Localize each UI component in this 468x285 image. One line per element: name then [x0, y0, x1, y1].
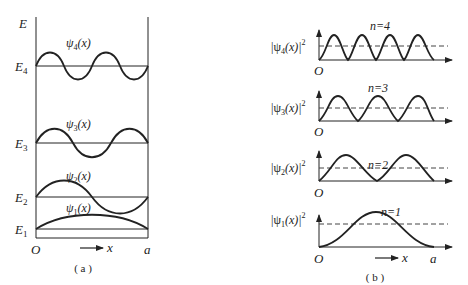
- n-label-3: n=3: [368, 81, 388, 95]
- right-wall-label-b: a: [430, 251, 437, 266]
- caption-b: ( b ): [366, 271, 385, 284]
- y-label-n1: |ψ1(x)|2: [271, 211, 306, 229]
- y-label-n4: |ψ4(x)|2: [271, 38, 306, 56]
- psi3-label: ψ3(x): [66, 117, 91, 133]
- caption-a: ( a ): [74, 262, 92, 275]
- probability-curve-n1: [319, 212, 434, 247]
- probability-plot-n2: n=2 |ψ2(x)|2 O: [271, 151, 452, 200]
- panel-b: n=4 |ψ4(x)|2 O n=3 |ψ3(x)|2 O n=2 |ψ2(x)…: [271, 19, 452, 284]
- y-label-n2: |ψ2(x)|2: [271, 159, 306, 177]
- y-label-n3: |ψ3(x)|2: [271, 99, 306, 117]
- x-label-b: x: [401, 250, 408, 265]
- energy-label-3: E3: [14, 136, 28, 153]
- probability-plot-n1: n=1 |ψ1(x)|2 O x a: [271, 205, 452, 266]
- x-label-a: x: [106, 240, 113, 255]
- wavefunction-psi1: [36, 215, 148, 229]
- energy-label-1: E1: [14, 222, 27, 239]
- origin-label-n1: O: [314, 251, 324, 266]
- energy-label-4: E4: [14, 59, 28, 76]
- psi2-label: ψ2(x): [66, 169, 91, 185]
- energy-label-2: E2: [14, 190, 27, 207]
- origin-label-n4: O: [314, 63, 324, 78]
- n-label-4: n=4: [370, 19, 390, 33]
- origin-label-n2: O: [314, 185, 324, 200]
- right-wall-label-a: a: [144, 242, 151, 257]
- origin-label-n3: O: [314, 124, 324, 139]
- infinite-square-well-figure: E E4 E3 E2 E1 ψ4(x) ψ3(x) ψ2(x) ψ1(x) O …: [0, 0, 468, 285]
- psi1-label: ψ1(x): [66, 201, 91, 217]
- n-label-2: n=2: [368, 158, 388, 172]
- probability-curve-n4: [319, 35, 434, 60]
- probability-plot-n4: n=4 |ψ4(x)|2 O: [271, 19, 452, 78]
- n-label-1: n=1: [381, 205, 401, 219]
- origin-label-a: O: [31, 242, 41, 257]
- energy-axis-label: E: [18, 16, 27, 31]
- panel-a: E E4 E3 E2 E1 ψ4(x) ψ3(x) ψ2(x) ψ1(x) O …: [14, 16, 151, 275]
- probability-plot-n3: n=3 |ψ3(x)|2 O: [271, 81, 452, 139]
- psi4-label: ψ4(x): [66, 36, 91, 52]
